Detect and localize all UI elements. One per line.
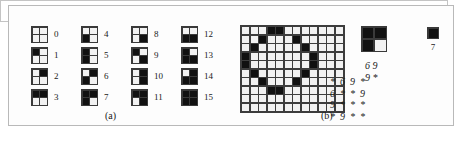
- bitmap-cell-3-2: [259, 53, 266, 60]
- pattern-item-5: 5: [81, 45, 109, 66]
- bitmap-cell-5-8: [310, 70, 317, 77]
- tile-cell-3: [140, 56, 146, 62]
- tile-cell-2: [133, 35, 139, 41]
- bitmap-cell-4-2: [259, 61, 266, 68]
- tile-cell-2: [83, 98, 89, 104]
- pattern-index-label: 3: [54, 93, 59, 102]
- bitmap-grid: [240, 25, 345, 113]
- tile-cell-2: [183, 98, 189, 104]
- pattern-index-label: 6: [104, 72, 109, 81]
- bitmap-cell-2-6: [293, 44, 300, 51]
- bitmap-cell-8-6: [293, 95, 300, 102]
- pattern-index-label: 15: [204, 93, 213, 102]
- tile-cell-2: [183, 56, 189, 62]
- bitmap-cell-4-6: [293, 61, 300, 68]
- tile-cell-2: [133, 56, 139, 62]
- bitmap-code-row-1: 6 * * 9: [330, 88, 365, 100]
- pattern-column-1: 4567: [81, 24, 109, 108]
- bitmap-cell-1-4: [276, 36, 283, 43]
- tile-cell-3: [40, 98, 46, 104]
- pattern-column-0: 0123: [31, 24, 59, 108]
- pattern-item-0: 0: [31, 24, 59, 45]
- tile-cell-0: [363, 28, 374, 39]
- bitmap-cell-8-4: [276, 95, 283, 102]
- tile-cell-0: [33, 28, 39, 34]
- bitmap-cell-0-7: [302, 27, 309, 34]
- bitmap-cell-4-11: [336, 61, 343, 68]
- pattern-tile-11: [131, 89, 148, 106]
- tile-cell-2: [33, 98, 39, 104]
- tile-cell-2: [33, 35, 39, 41]
- bitmap-cell-0-2: [259, 27, 266, 34]
- bitmap-cell-1-6: [293, 36, 300, 43]
- single-tile-group: 7: [427, 27, 439, 52]
- bitmap-cell-9-2: [259, 104, 266, 111]
- bitmap-cell-8-8: [310, 95, 317, 102]
- pattern-index-label: 8: [154, 30, 159, 39]
- pattern-index-label: 13: [204, 51, 213, 60]
- bitmap-cell-2-1: [251, 44, 258, 51]
- bitmap-cell-5-2: [259, 70, 266, 77]
- bitmap-cell-1-8: [310, 36, 317, 43]
- tile-cell-2: [183, 77, 189, 83]
- bitmap-cell-4-0: [242, 61, 249, 68]
- tile-cell-0: [33, 91, 39, 97]
- sample-tile-group: [361, 26, 387, 52]
- tile-cell-1: [40, 49, 46, 55]
- bitmap-cell-6-1: [251, 78, 258, 85]
- tile-cell-0: [133, 49, 139, 55]
- pattern-item-7: 7: [81, 87, 109, 108]
- sample-code-row-1: 9 *: [365, 72, 378, 84]
- bitmap-code-row-2: 9 * * *: [330, 99, 365, 111]
- figure-root: 0123 4567 891011 12131415 (a) 6 99 * 7 *…: [0, 0, 462, 155]
- bitmap-cell-1-10: [327, 36, 334, 43]
- pattern-item-4: 4: [81, 24, 109, 45]
- bitmap-cell-9-8: [310, 104, 317, 111]
- figure-main-frame: 0123 4567 891011 12131415 (a) 6 99 * 7 *…: [8, 5, 454, 126]
- bitmap-cell-1-11: [336, 36, 343, 43]
- tile-cell-3: [190, 98, 196, 104]
- bitmap-cell-3-11: [336, 53, 343, 60]
- bitmap-cell-0-10: [327, 27, 334, 34]
- bitmap-cell-7-6: [293, 87, 300, 94]
- tile-cell-2: [83, 77, 89, 83]
- bitmap-cell-7-8: [310, 87, 317, 94]
- bitmap-cell-6-5: [285, 78, 292, 85]
- pattern-index-label: 7: [104, 93, 109, 102]
- bitmap-cell-2-11: [336, 44, 343, 51]
- bitmap-cell-9-7: [302, 104, 309, 111]
- bitmap-cell-7-5: [285, 87, 292, 94]
- tile-cell-2: [133, 98, 139, 104]
- bitmap-cell-3-9: [319, 53, 326, 60]
- pattern-item-8: 8: [131, 24, 163, 45]
- tile-cell-1: [40, 28, 46, 34]
- tile-cell-0: [183, 91, 189, 97]
- sample-tile: [361, 26, 387, 52]
- tile-cell-2: [363, 40, 374, 51]
- tile-cell-0: [83, 70, 89, 76]
- bitmap-cell-1-0: [242, 36, 249, 43]
- pattern-tile-14: [181, 68, 198, 85]
- pattern-tile-4: [81, 26, 98, 43]
- bitmap-cell-9-1: [251, 104, 258, 111]
- bitmap-cell-8-9: [319, 95, 326, 102]
- panel-b-caption: (b): [321, 110, 333, 121]
- tile-cell-3: [140, 35, 146, 41]
- tile-cell-1: [90, 91, 96, 97]
- bitmap-cell-6-8: [310, 78, 317, 85]
- bitmap-cell-0-5: [285, 27, 292, 34]
- pattern-item-1: 1: [31, 45, 59, 66]
- bitmap-cell-4-4: [276, 61, 283, 68]
- single-tile-label: 7: [427, 42, 439, 52]
- bitmap-cell-6-3: [268, 78, 275, 85]
- pattern-index-label: 9: [154, 51, 159, 60]
- bitmap-cell-9-5: [285, 104, 292, 111]
- pattern-index-label: 14: [204, 72, 213, 81]
- tile-cell-0: [83, 91, 89, 97]
- bitmap-cell-2-10: [327, 44, 334, 51]
- bitmap-cell-8-2: [259, 95, 266, 102]
- bitmap-cell-4-5: [285, 61, 292, 68]
- pattern-tile-6: [81, 68, 98, 85]
- bitmap-cell-2-0: [242, 44, 249, 51]
- bitmap-cell-8-3: [268, 95, 275, 102]
